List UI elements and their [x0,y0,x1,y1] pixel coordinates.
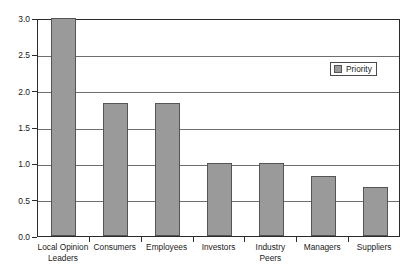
y-axis-tick-mark [32,200,37,201]
bar [311,176,336,236]
bar [259,163,284,236]
legend-label-priority: Priority [346,65,372,73]
legend-swatch-priority [334,65,342,73]
gridline [38,92,399,93]
y-axis-tick-mark [32,164,37,165]
y-axis-tick-label: 3.0 [0,15,30,24]
y-axis-tick-mark [32,237,37,238]
y-axis-tick-label: 0.5 [0,196,30,205]
x-axis-tick-label: Suppliers [348,242,400,253]
y-axis-tick-label: 2.0 [0,87,30,96]
x-axis-tick-label: Industry Peers [244,242,296,263]
x-axis-tick-label: Employees [141,242,193,253]
bar [363,187,388,236]
y-axis-tick-mark [32,19,37,20]
y-axis-tick-mark [32,128,37,129]
y-axis-tick-mark [32,55,37,56]
x-axis-tick-label: Local Opinion Leaders [37,242,89,263]
plot-area [37,19,400,237]
y-axis-tick-label: 0.0 [0,233,30,242]
chart-legend: Priority [330,62,377,76]
x-axis-tick-label: Consumers [89,242,141,253]
bar [103,103,128,236]
y-axis-tick-label: 1.5 [0,124,30,133]
gridline [38,129,399,130]
x-axis-tick-label: Investors [193,242,245,253]
y-axis-tick-mark [32,91,37,92]
y-axis-tick-label: 2.5 [0,51,30,60]
gridline [38,56,399,57]
x-axis-tick-label: Managers [296,242,348,253]
bar [155,103,180,236]
bar [51,18,76,236]
bar-chart: 0.00.51.01.52.02.53.0 Local Opinion Lead… [0,0,414,273]
y-axis-tick-label: 1.0 [0,160,30,169]
bar [207,163,232,236]
